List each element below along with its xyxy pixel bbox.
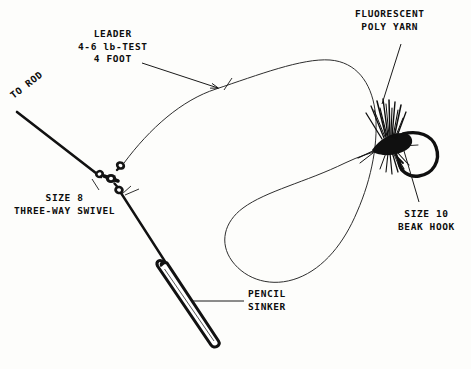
pointer-poly-yarn (382, 44, 401, 104)
label-three-way-swivel: SIZE 8 THREE-WAY SWIVEL (14, 192, 115, 217)
yarn-fly (358, 99, 412, 174)
label-poly-yarn: FLUORESCENT POLY YARN (355, 8, 425, 33)
main-line-to-rod (17, 112, 101, 177)
label-leader: LEADER 4-6 lb-TEST 4 FOOT (78, 28, 148, 66)
pointer-swivel-left (92, 179, 99, 190)
dropper-line (121, 193, 166, 263)
pointer-leader (142, 63, 218, 88)
label-pencil-sinker: PENCIL SINKER (248, 288, 286, 313)
pencil-sinker (157, 261, 219, 347)
poly-yarn-tuft (366, 99, 406, 139)
monofilament-leader-loop (124, 60, 418, 282)
fishing-rig-diagram: TO ROD LEADER 4-6 lb-TEST 4 FOOT FLUORES… (0, 0, 471, 369)
diagram-canvas (0, 0, 471, 369)
label-beak-hook: SIZE 10 BEAK HOOK (398, 208, 455, 233)
